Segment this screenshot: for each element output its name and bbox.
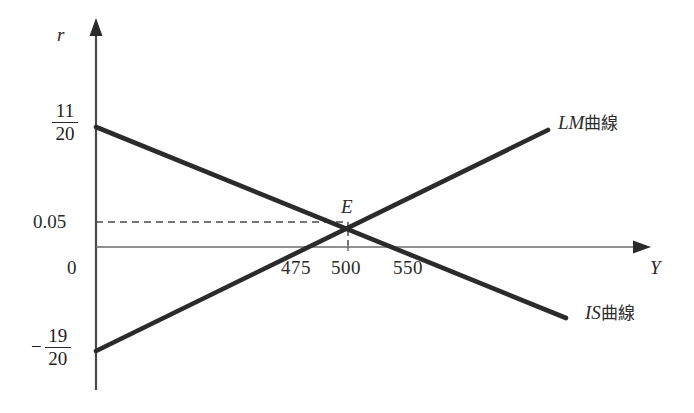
x-tick-label-500: 500 (331, 258, 361, 277)
y-axis (90, 18, 103, 390)
lm-curve-line (96, 130, 548, 351)
y-value-top-fraction: 11 20 (49, 100, 78, 145)
y-axis-arrow-icon (90, 18, 103, 36)
x-axis (96, 241, 651, 254)
lm-curve-label: LM曲線 (558, 113, 618, 132)
bottom-fraction-denominator: 20 (46, 348, 69, 370)
top-fraction-numerator: 11 (54, 100, 76, 122)
x-axis-label: Y (650, 258, 661, 277)
y-axis-label: r (57, 25, 64, 44)
bottom-fraction-numerator: 19 (46, 325, 69, 347)
top-fraction-denominator: 20 (54, 123, 77, 145)
is-lm-diagram: r Y 11 20 0.05 0 − 19 20 475 500 550 E L… (0, 0, 694, 413)
x-axis-arrow-icon (633, 241, 651, 254)
bottom-fraction-sign: − (31, 336, 42, 358)
lm-curve-tag: LM (558, 112, 584, 133)
is-curve-suffix: 曲線 (601, 303, 635, 323)
equilibrium-rate-label: 0.05 (33, 212, 66, 231)
is-curve-tag: IS (585, 302, 601, 323)
equilibrium-point-label: E (341, 197, 353, 216)
is-curve-label: IS曲線 (585, 303, 635, 322)
x-tick-label-550: 550 (393, 258, 423, 277)
y-value-bottom-fraction: − 19 20 (31, 325, 71, 370)
lm-curve-suffix: 曲線 (584, 113, 618, 133)
x-tick-label-475: 475 (281, 258, 311, 277)
origin-label: 0 (67, 258, 77, 277)
